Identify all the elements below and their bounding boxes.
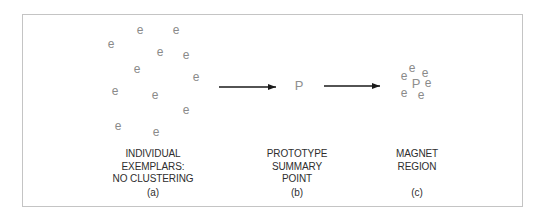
exemplar-glyph: e (173, 24, 180, 36)
panel-b-label-line: SUMMARY (267, 161, 328, 174)
panel-b-label-line: POINT (267, 173, 328, 186)
panel-c-label-line: MAGNET (396, 148, 438, 161)
prototype-glyph: P (295, 80, 304, 92)
exemplar-glyph: e (425, 77, 432, 89)
exemplar-glyph: e (193, 71, 200, 83)
panel-a-caption: (a) (147, 187, 159, 198)
exemplar-glyph: e (137, 24, 144, 36)
exemplar-glyph: e (115, 120, 122, 132)
exemplar-glyph: e (401, 70, 408, 82)
exemplar-glyph: e (153, 126, 160, 138)
exemplar-glyph: e (183, 104, 190, 116)
exemplar-glyph: e (152, 89, 159, 101)
exemplar-glyph: e (157, 46, 164, 58)
panel-a-label-line: INDIVIDUAL (113, 148, 194, 161)
panel-c-label: MAGNET REGION (396, 148, 438, 173)
arrows-layer (0, 0, 543, 219)
panel-a-label-line: NO CLUSTERING (113, 173, 194, 186)
exemplar-glyph: e (409, 62, 416, 74)
exemplar-glyph: e (418, 89, 425, 101)
panel-a-label: INDIVIDUAL EXEMPLARS: NO CLUSTERING (113, 148, 194, 186)
exemplar-glyph: e (183, 49, 190, 61)
exemplar-glyph: e (401, 87, 408, 99)
exemplar-glyph: e (112, 85, 119, 97)
panel-a-label-line: EXEMPLARS: (113, 161, 194, 174)
panel-b-label-line: PROTOTYPE (267, 148, 328, 161)
panel-b-label: PROTOTYPE SUMMARY POINT (267, 148, 328, 186)
exemplar-glyph: e (134, 63, 141, 75)
exemplar-glyph: e (108, 38, 115, 50)
panel-c-caption: (c) (411, 187, 423, 198)
panel-b-caption: (b) (291, 187, 303, 198)
panel-c-label-line: REGION (396, 161, 438, 174)
